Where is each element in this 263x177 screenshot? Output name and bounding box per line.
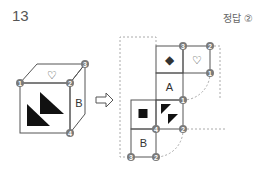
diamond-icon: ◆ <box>165 53 175 67</box>
svg-text:3: 3 <box>129 154 133 161</box>
square-icon <box>139 109 148 118</box>
net-label-a: A <box>166 81 174 93</box>
front-triangles-icon <box>27 92 64 126</box>
svg-text:2: 2 <box>68 80 72 87</box>
svg-text:2: 2 <box>181 126 185 133</box>
heart-icon: ♡ <box>192 54 202 66</box>
net-triangles-icon <box>161 104 178 124</box>
cube-right-label: B <box>75 97 82 109</box>
arrow-icon <box>96 93 113 107</box>
heart-icon: ♡ <box>47 69 57 81</box>
svg-text:4: 4 <box>68 130 72 137</box>
svg-text:4: 4 <box>154 126 158 133</box>
svg-text:3: 3 <box>181 43 185 50</box>
svg-text:1: 1 <box>18 80 22 87</box>
net-label-b: B <box>140 137 147 149</box>
svg-text:3: 3 <box>83 61 87 68</box>
svg-text:2: 2 <box>208 43 212 50</box>
cube-net-diagram: ♡ B 1 2 3 4 ◆ ♡ A B 3 2 1 <box>0 0 263 177</box>
svg-text:1: 1 <box>208 70 212 77</box>
svg-text:2: 2 <box>154 154 158 161</box>
svg-text:1: 1 <box>181 97 185 104</box>
